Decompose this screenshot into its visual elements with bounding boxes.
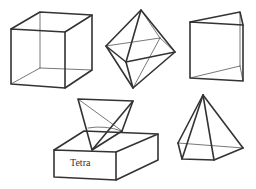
polyhedra-svg: [0, 0, 256, 189]
triangular-prism-shape: [190, 12, 243, 81]
polyhedra-figure: Tetra: [0, 0, 256, 189]
box-shape: [54, 131, 158, 180]
cube-shape: [11, 12, 92, 88]
tetrahedron-shape: [78, 99, 133, 150]
octahedron-shape: [106, 10, 175, 88]
box-label: Tetra: [70, 157, 90, 168]
square-pyramid-shape: [178, 95, 243, 160]
